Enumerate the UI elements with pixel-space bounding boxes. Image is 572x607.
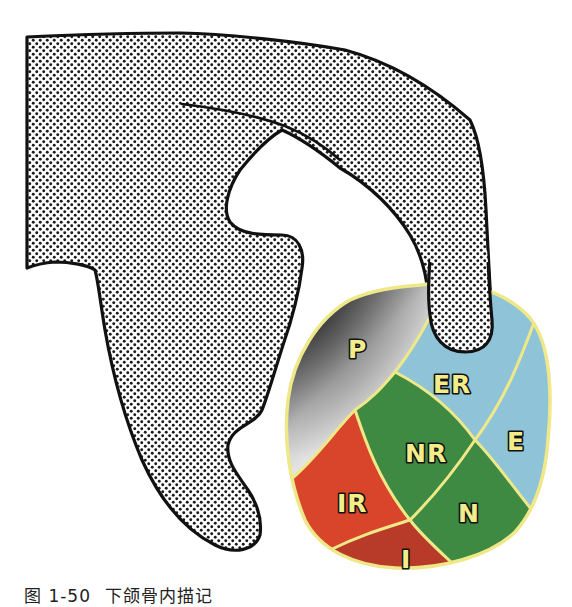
label-E: E [507, 427, 525, 456]
label-IR: IR [337, 489, 368, 518]
label-N: N [458, 499, 480, 528]
label-NR: NR [405, 439, 447, 468]
segmented-oval: P ER E NR N IR I [270, 250, 570, 580]
label-P: P [348, 335, 367, 364]
figure-title: 下颌骨内描记 [105, 586, 213, 606]
label-ER: ER [433, 370, 471, 399]
figure-number: 图 1-50 [24, 586, 91, 606]
jaw-finger-tip [429, 260, 493, 352]
label-I: I [401, 545, 411, 574]
figure-caption: 图 1-50下颌骨内描记 [24, 582, 213, 607]
